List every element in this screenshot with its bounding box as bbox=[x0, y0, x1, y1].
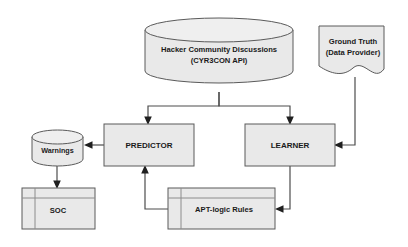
node-label-soc: SOC bbox=[50, 206, 67, 215]
node-label-warnings: Warnings bbox=[41, 146, 73, 155]
node-label-discussions-line2: (CYR3CON API) bbox=[191, 56, 248, 65]
edge-predictor-to-warnings bbox=[84, 141, 104, 149]
node-warnings[interactable]: Warnings bbox=[32, 130, 83, 166]
node-label-learner: LEARNER bbox=[271, 141, 310, 150]
edge-ground-truth-to-learner bbox=[334, 77, 355, 149]
node-apt-logic-rules[interactable]: APT-logic Rules bbox=[168, 188, 275, 229]
node-predictor[interactable]: PREDICTOR bbox=[104, 124, 194, 166]
edge-apt-logic-rules-to-predictor bbox=[141, 165, 168, 209]
edge-warnings-to-soc bbox=[53, 166, 61, 189]
node-label-ground-truth-line1: Ground Truth bbox=[329, 37, 378, 46]
node-label-discussions-line1: Hacker Community Discussions bbox=[161, 45, 277, 54]
node-soc[interactable]: SOC bbox=[22, 188, 95, 229]
node-ground-truth[interactable]: Ground Truth (Data Provider) bbox=[319, 26, 384, 74]
node-label-predictor: PREDICTOR bbox=[126, 141, 173, 150]
edge-learner-to-apt-logic-rules bbox=[275, 166, 290, 213]
node-label-ground-truth-line2: (Data Provider) bbox=[326, 48, 381, 57]
diagram-canvas: Hacker Community Discussions (CYR3CON AP… bbox=[0, 0, 408, 247]
edge-discussions-to-learner bbox=[219, 92, 294, 125]
node-hacker-community-discussions[interactable]: Hacker Community Discussions (CYR3CON AP… bbox=[145, 18, 293, 83]
node-learner[interactable]: LEARNER bbox=[245, 124, 335, 166]
architecture-diagram: Hacker Community Discussions (CYR3CON AP… bbox=[0, 0, 408, 247]
node-label-apt-logic-rules: APT-logic Rules bbox=[195, 205, 253, 214]
edge-discussions-to-predictor bbox=[144, 92, 219, 125]
